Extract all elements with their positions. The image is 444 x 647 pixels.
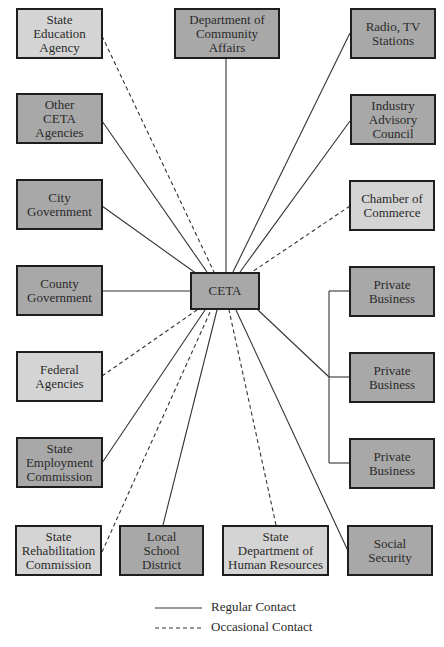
legend-regular-contact: Regular Contact xyxy=(211,599,296,615)
node-local-school-district: Local School District xyxy=(119,525,204,576)
node-federal-agencies: Federal Agencies xyxy=(16,351,103,402)
node-radio-tv-stations: Radio, TV Stations xyxy=(350,8,436,59)
link-local-school xyxy=(163,310,217,525)
node-industry-advisory-council: Industry Advisory Council xyxy=(350,94,436,145)
link-state-employment xyxy=(102,310,205,463)
node-department-community-affairs: Department of Community Affairs xyxy=(174,8,280,59)
link-private-bus-ceta xyxy=(258,310,329,377)
node-county-government: County Government xyxy=(16,265,103,316)
link-radio-tv xyxy=(233,33,350,272)
node-ceta-center: CETA xyxy=(190,272,260,310)
link-city-gov xyxy=(102,206,197,274)
link-other-ceta xyxy=(102,121,207,272)
link-state-rehab xyxy=(102,310,211,552)
link-industry-council xyxy=(240,121,350,272)
link-social-security xyxy=(236,310,348,551)
node-state-employment-commission: State Employment Commission xyxy=(16,437,103,488)
node-private-business-2: Private Business xyxy=(349,352,435,403)
link-state-education xyxy=(102,36,214,272)
node-other-ceta-agencies: Other CETA Agencies xyxy=(16,93,103,144)
node-city-government: City Government xyxy=(16,179,103,230)
link-chamber xyxy=(252,206,350,272)
node-private-business-1: Private Business xyxy=(349,266,435,317)
node-state-rehabilitation-commission: State Rehabilitation Commission xyxy=(15,525,102,576)
node-state-department-human-resources: State Department of Human Resources xyxy=(222,525,329,576)
node-state-education-agency: State Education Agency xyxy=(16,8,103,59)
node-private-business-3: Private Business xyxy=(349,438,435,489)
node-social-security: Social Security xyxy=(347,525,433,576)
node-chamber-of-commerce: Chamber of Commerce xyxy=(349,180,435,231)
link-state-dhr xyxy=(229,310,276,525)
legend-occasional-contact: Occasional Contact xyxy=(211,619,312,635)
